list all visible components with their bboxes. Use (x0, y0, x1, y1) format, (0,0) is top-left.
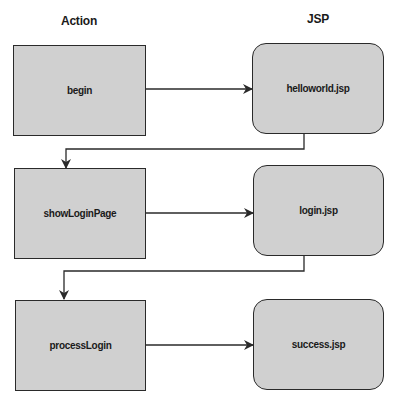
jsp-node-label: helloworld.jsp (286, 83, 349, 94)
jsp-node-label: login.jsp (299, 205, 337, 216)
jsp-node-label: success.jsp (292, 339, 345, 350)
arrow-login-to-processlogin (64, 255, 304, 299)
action-node-label: showLoginPage (44, 208, 117, 219)
action-node-label: begin (67, 85, 92, 96)
action-node-processlogin: processLogin (15, 300, 146, 391)
jsp-node-helloworld: helloworld.jsp (252, 43, 384, 134)
action-node-showloginpage: showLoginPage (14, 168, 146, 259)
jsp-node-success: success.jsp (253, 299, 384, 390)
arrow-helloworld-to-showloginpage (66, 133, 304, 168)
jsp-node-login: login.jsp (253, 165, 384, 256)
action-node-label: processLogin (50, 340, 112, 351)
action-node-begin: begin (13, 45, 146, 136)
